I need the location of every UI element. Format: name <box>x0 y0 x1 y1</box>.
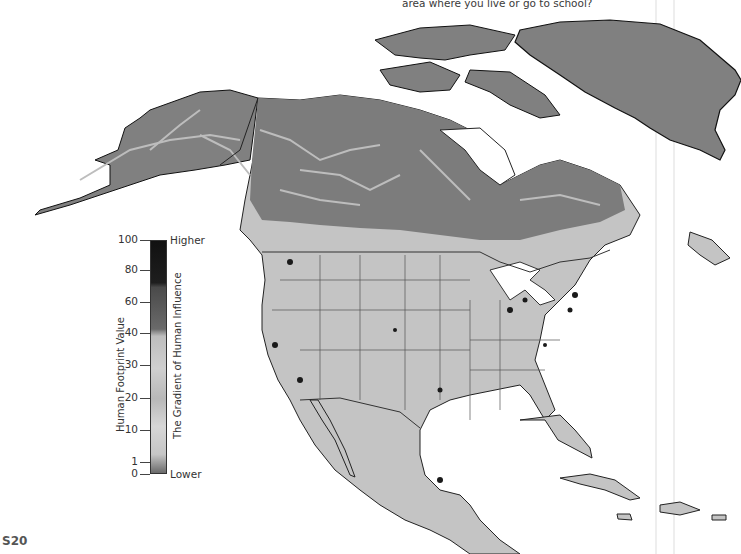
tick-label-60: 60 <box>112 295 138 307</box>
arctic-islands <box>375 25 515 60</box>
tick-mark <box>140 333 150 334</box>
human-footprint-legend: 100 80 60 40 30 20 10 1 0 Higher Lower H… <box>110 232 220 492</box>
jamaica <box>617 514 632 520</box>
tick-label-80: 80 <box>112 263 138 275</box>
tick-mark <box>140 302 150 303</box>
alaska-landmass <box>35 90 258 215</box>
page-number: S20 <box>2 534 27 548</box>
textbook-page: area where you live or go to school? <box>0 0 741 554</box>
tick-mark <box>140 398 150 399</box>
tick-mark <box>140 240 150 241</box>
gradient-color-bar <box>150 240 167 474</box>
tick-mark <box>140 474 150 475</box>
tick-mark <box>140 430 150 431</box>
tick-mark <box>140 270 150 271</box>
newfoundland <box>688 232 730 265</box>
legend-axis-title: Human Footprint Value <box>115 317 126 432</box>
arctic-islands <box>380 62 460 92</box>
gulf-of-mexico <box>445 412 560 495</box>
puerto-rico <box>712 515 726 520</box>
tick-label-0: 0 <box>112 467 138 479</box>
legend-gradient-title: The Gradient of Human Influence <box>172 272 183 439</box>
tick-label-1: 1 <box>112 455 138 467</box>
legend-high-label: Higher <box>170 234 205 246</box>
greenland-landmass <box>515 20 741 160</box>
tick-mark <box>140 365 150 366</box>
legend-low-label: Lower <box>170 468 201 480</box>
tick-mark <box>140 462 150 463</box>
tick-label-100: 100 <box>112 233 138 245</box>
cuba <box>560 474 640 500</box>
hispaniola <box>660 502 700 515</box>
arctic-islands <box>465 70 560 118</box>
